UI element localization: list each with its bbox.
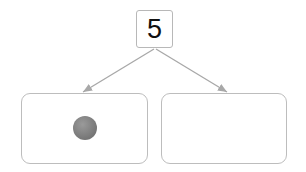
whole-number-box: 5	[136, 10, 173, 48]
arrow-to-left-part	[83, 49, 154, 92]
part-box-right[interactable]	[161, 93, 287, 164]
ball-icon[interactable]	[73, 116, 97, 140]
arrow-to-right-part	[156, 49, 227, 92]
whole-number: 5	[147, 14, 162, 45]
